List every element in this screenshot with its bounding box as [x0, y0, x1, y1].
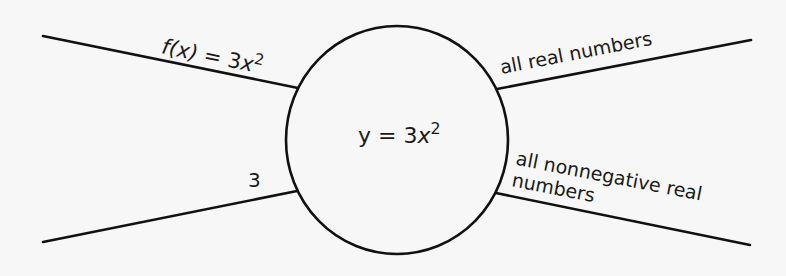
center-lhs: y — [358, 123, 371, 148]
center-variable: x — [417, 123, 430, 148]
center-equation-label: y = 3x2 — [358, 125, 441, 147]
connector-lower-left — [43, 191, 297, 242]
center-exponent: 2 — [430, 119, 440, 138]
input-value-label: 3 — [248, 170, 261, 190]
center-equals: = 3 — [371, 123, 417, 148]
diagram-canvas: f(x) = 3x2 3 y = 3x2 all real numbers al… — [0, 0, 786, 276]
